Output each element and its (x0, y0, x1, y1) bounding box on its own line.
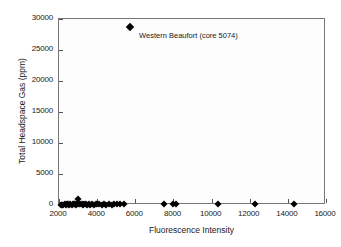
y-tick-label: 30000 (32, 14, 53, 22)
y-tick-mark (59, 19, 63, 20)
x-tick-label: 6000 (126, 210, 143, 218)
y-tick-label: 15000 (32, 107, 53, 115)
x-tick-label: 4000 (88, 210, 105, 218)
x-tick-label: 10000 (200, 210, 221, 218)
x-tick-label: 2000 (50, 210, 67, 218)
x-tick-label: 8000 (164, 210, 181, 218)
y-tick-label: 0 (49, 200, 53, 208)
y-tick-label: 25000 (32, 45, 53, 53)
y-tick-mark (59, 143, 63, 144)
y-tick-label: 20000 (32, 76, 53, 84)
y-axis-title: Total Headspace Gas (ppm) (17, 21, 27, 201)
data-point (215, 201, 222, 208)
x-tick-mark (326, 199, 327, 203)
annotation-western-beaufort: Western Beaufort (core 5074) (139, 32, 238, 40)
x-tick-label: 14000 (276, 210, 297, 218)
data-point (160, 201, 167, 208)
x-tick-mark (288, 199, 289, 203)
y-tick-label: 5000 (36, 169, 53, 177)
data-point (121, 201, 128, 208)
data-point (252, 201, 259, 208)
data-point (126, 23, 134, 31)
data-point (290, 201, 297, 208)
y-tick-label: 10000 (32, 138, 53, 146)
x-tick-label: 16000 (314, 210, 335, 218)
x-tick-mark (135, 199, 136, 203)
y-tick-mark (59, 50, 63, 51)
y-tick-mark (59, 174, 63, 175)
y-tick-mark (59, 112, 63, 113)
plot-area: Western Beaufort (core 5074) (58, 18, 325, 204)
y-tick-mark (59, 81, 63, 82)
x-axis-title: Fluorescence Intensity (58, 225, 325, 235)
chart-figure: Total Headspace Gas (ppm) 05000100001500… (0, 0, 341, 247)
x-tick-mark (250, 199, 251, 203)
x-tick-mark (212, 199, 213, 203)
x-tick-label: 12000 (238, 210, 259, 218)
